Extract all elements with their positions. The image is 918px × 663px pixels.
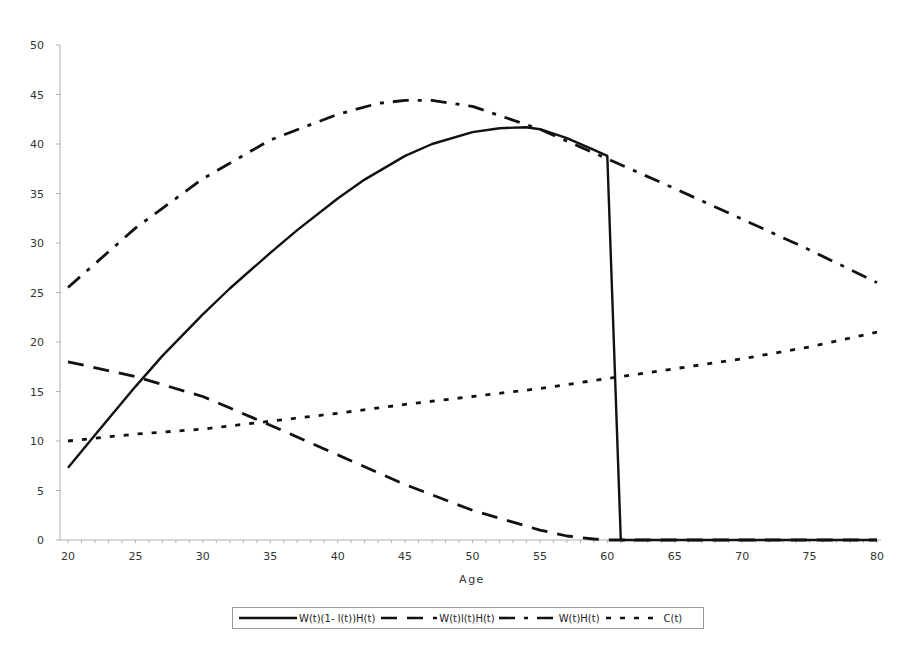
x-tick-label: 40 — [331, 550, 345, 563]
x-tick-label: 25 — [128, 550, 142, 563]
line-chart: 0510152025303540455020253035404550556065… — [0, 0, 918, 663]
x-tick-label: 30 — [196, 550, 210, 563]
y-tick-label: 5 — [37, 485, 44, 498]
legend: W(t)(1- l(t))H(t) W(t)l(t)H(t) W(t)H(t) … — [232, 607, 704, 629]
y-tick-label: 40 — [30, 138, 44, 151]
x-tick-label: 50 — [466, 550, 480, 563]
series-line-3 — [68, 332, 877, 441]
y-tick-label: 35 — [30, 188, 44, 201]
y-tick-label: 0 — [37, 534, 44, 547]
y-tick-label: 25 — [30, 287, 44, 300]
plot-area — [68, 100, 877, 540]
x-tick-label: 20 — [61, 550, 75, 563]
x-tick-label: 70 — [735, 550, 749, 563]
dashed-line-icon — [379, 614, 437, 622]
dash-dot-line-icon — [499, 614, 557, 622]
legend-item-c: C(t) — [604, 613, 683, 624]
x-tick-label: 75 — [803, 550, 817, 563]
legend-label: W(t)(1- l(t))H(t) — [299, 613, 375, 624]
series-line-2 — [68, 100, 877, 287]
y-tick-label: 45 — [30, 89, 44, 102]
axes: 0510152025303540455020253035404550556065… — [30, 39, 884, 563]
x-tick-label: 55 — [533, 550, 547, 563]
x-tick-label: 35 — [263, 550, 277, 563]
x-axis-title: Age — [459, 573, 485, 586]
x-tick-label: 65 — [668, 550, 682, 563]
legend-item-w-l-h: W(t)l(t)H(t) — [379, 613, 494, 624]
x-tick-label: 60 — [600, 550, 614, 563]
legend-label: W(t)H(t) — [559, 613, 600, 624]
y-tick-label: 50 — [30, 39, 44, 52]
dotted-line-icon — [604, 614, 662, 622]
legend-label: W(t)l(t)H(t) — [439, 613, 494, 624]
legend-item-w-h: W(t)H(t) — [499, 613, 600, 624]
y-tick-label: 20 — [30, 336, 44, 349]
y-tick-label: 15 — [30, 386, 44, 399]
x-tick-label: 80 — [870, 550, 884, 563]
solid-line-icon — [239, 614, 297, 622]
y-tick-label: 30 — [30, 237, 44, 250]
legend-label: C(t) — [664, 613, 683, 624]
x-tick-label: 45 — [398, 550, 412, 563]
y-tick-label: 10 — [30, 435, 44, 448]
legend-item-w-1-l-h: W(t)(1- l(t))H(t) — [239, 613, 375, 624]
series-line-1 — [68, 362, 877, 540]
